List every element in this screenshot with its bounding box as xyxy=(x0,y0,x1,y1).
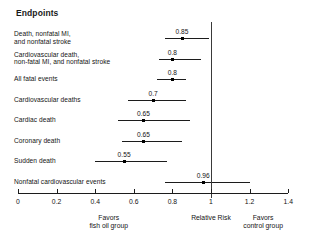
endpoint-label: Death, nonfatal MI,and nonfatal stroke xyxy=(14,30,71,45)
endpoint-label-line: Cardiac death xyxy=(14,116,56,124)
forest-plot-figure: Endpoints Death, nonfatal MI,and nonfata… xyxy=(0,0,323,240)
point-estimate-marker xyxy=(171,58,174,61)
point-estimate-marker xyxy=(181,37,184,40)
axis-caption-line: fish oil group xyxy=(89,222,128,230)
x-axis-tick-label: 1.2 xyxy=(245,198,254,205)
x-axis-tick-label: 0.4 xyxy=(90,198,99,205)
endpoint-label: Nonfatal cardiovascular events xyxy=(14,178,106,186)
point-estimate-value: 0.65 xyxy=(137,131,150,138)
confidence-interval-line xyxy=(165,38,209,39)
x-axis-tick-label: 0.2 xyxy=(52,198,61,205)
x-axis-tick-label: 0.6 xyxy=(129,198,138,205)
x-axis-tick xyxy=(250,189,251,193)
point-estimate-marker xyxy=(171,78,174,81)
axis-caption-line: control group xyxy=(243,222,283,230)
confidence-interval-line xyxy=(122,141,182,142)
axis-caption-left: Favorsfish oil group xyxy=(89,214,128,231)
endpoint-label: Sudden death xyxy=(14,157,56,165)
endpoint-label: Cardiac death xyxy=(14,116,56,124)
axis-caption-line: Relative Risk xyxy=(191,214,231,222)
endpoint-label-line: non-fatal MI, and nonfatal stroke xyxy=(14,58,110,66)
page-title: Endpoints xyxy=(16,8,58,18)
point-estimate-value: 0.8 xyxy=(168,49,177,56)
point-estimate-value: 0.7 xyxy=(148,90,157,97)
endpoint-label: Cardiovascular death,non-fatal MI, and n… xyxy=(14,51,110,66)
point-estimate-value: 0.8 xyxy=(168,69,177,76)
endpoint-label-line: and nonfatal stroke xyxy=(14,38,71,46)
point-estimate-value: 0.96 xyxy=(197,172,210,179)
endpoint-label-line: Death, nonfatal MI, xyxy=(14,30,71,38)
endpoint-label: Cardiovascular deaths xyxy=(14,96,81,104)
endpoint-label-line: Sudden death xyxy=(14,157,56,165)
confidence-interval-line xyxy=(95,161,166,162)
x-axis-tick-label: 0 xyxy=(16,198,20,205)
confidence-interval-line xyxy=(165,182,250,183)
point-estimate-value: 0.85 xyxy=(176,28,189,35)
x-axis-tick xyxy=(95,189,96,193)
reference-line-at-one xyxy=(211,22,212,198)
confidence-interval-line xyxy=(118,120,189,121)
x-axis-tick-label: 0.8 xyxy=(168,198,177,205)
x-axis-tick xyxy=(134,189,135,193)
x-axis-tick-label: 1.4 xyxy=(283,198,292,205)
x-axis-tick-label: 1 xyxy=(209,198,213,205)
x-axis-tick xyxy=(288,189,289,193)
point-estimate-marker xyxy=(142,119,145,122)
endpoint-label-line: All fatal events xyxy=(14,75,58,83)
endpoint-label: Coronary death xyxy=(14,137,60,145)
axis-caption-line: Favors xyxy=(243,214,283,222)
x-axis-tick xyxy=(211,189,212,193)
endpoint-label-line: Coronary death xyxy=(14,137,60,145)
endpoint-label: All fatal events xyxy=(14,75,58,83)
confidence-interval-line xyxy=(128,100,186,101)
confidence-interval-line xyxy=(159,59,201,60)
point-estimate-marker xyxy=(152,99,155,102)
endpoint-label-line: Cardiovascular death, xyxy=(14,51,110,59)
point-estimate-value: 0.65 xyxy=(137,110,150,117)
x-axis-line xyxy=(18,193,288,194)
endpoint-label-line: Nonfatal cardiovascular events xyxy=(14,178,106,186)
x-axis-tick xyxy=(18,189,19,193)
point-estimate-value: 0.55 xyxy=(118,151,131,158)
axis-caption-center: Relative Risk xyxy=(191,214,231,222)
axis-caption-right: Favorscontrol group xyxy=(243,214,283,231)
point-estimate-marker xyxy=(202,181,205,184)
point-estimate-marker xyxy=(142,140,145,143)
endpoint-label-line: Cardiovascular deaths xyxy=(14,96,81,104)
x-axis-tick xyxy=(57,189,58,193)
axis-caption-line: Favors xyxy=(89,214,128,222)
x-axis-tick xyxy=(172,189,173,193)
point-estimate-marker xyxy=(123,160,126,163)
